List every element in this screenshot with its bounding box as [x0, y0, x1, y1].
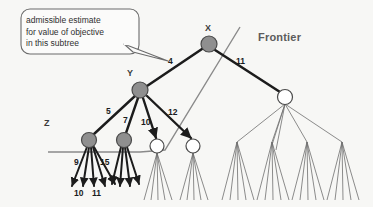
node-W[interactable]	[117, 133, 132, 148]
edge-label-10-mid: 10	[141, 118, 150, 127]
edge-label-11: 11	[236, 57, 245, 66]
edge-label-9: 9	[74, 158, 79, 167]
node-R[interactable]	[278, 90, 293, 105]
frontier-label: Frontier	[258, 32, 301, 43]
edge-x-y	[147, 49, 202, 86]
edge-label-5: 5	[106, 107, 111, 116]
edge-label-7: 7	[123, 116, 128, 125]
edge-label-12: 12	[168, 108, 177, 117]
w-children-arrows	[112, 147, 139, 186]
tree-edges-thick	[94, 49, 280, 138]
callout-text: admissible estimate for value of objecti…	[26, 15, 134, 50]
diagram-canvas: admissible estimate for value of objecti…	[0, 0, 373, 207]
node-F2[interactable]	[186, 139, 200, 153]
node-label-z: Z	[44, 119, 50, 128]
edge-label-4: 4	[168, 57, 173, 66]
frontier-node-fans	[144, 104, 285, 200]
leaf-label-10: 10	[74, 189, 83, 198]
edge-x-right	[215, 50, 280, 92]
node-F1[interactable]	[150, 139, 164, 153]
edge-label-15: 15	[100, 158, 109, 167]
node-X[interactable]	[201, 36, 217, 52]
right-subtree-edges	[222, 104, 359, 200]
leaf-label-11: 11	[92, 189, 101, 198]
node-Z[interactable]	[82, 133, 97, 148]
node-label-y: Y	[127, 69, 133, 78]
node-Y[interactable]	[132, 82, 148, 98]
node-label-x: X	[205, 24, 211, 33]
